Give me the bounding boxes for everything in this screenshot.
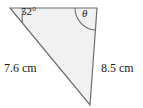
angle-label-52: 52° <box>21 6 36 17</box>
side-label-left: 7.6 cm <box>4 62 37 74</box>
geometry-diagram: 52° θ 7.6 cm 8.5 cm <box>0 0 143 108</box>
triangle-shape <box>10 8 97 105</box>
side-label-right: 8.5 cm <box>101 62 134 74</box>
angle-label-theta: θ <box>82 8 87 19</box>
